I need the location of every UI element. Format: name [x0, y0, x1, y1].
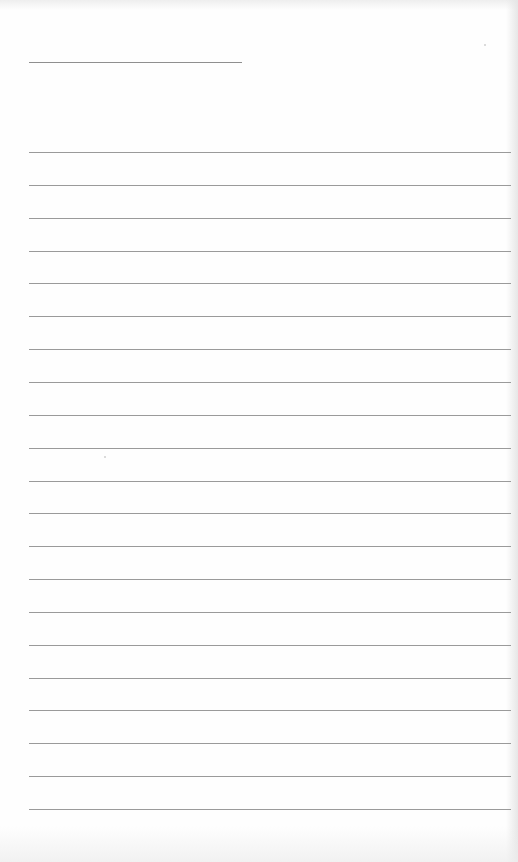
write-line-20[interactable]: [29, 776, 511, 777]
write-line-15[interactable]: [29, 612, 511, 613]
write-line-8[interactable]: [29, 382, 511, 383]
write-line-12[interactable]: [29, 513, 511, 514]
scan-top-shadow: [0, 0, 518, 10]
write-line-10[interactable]: [29, 448, 511, 449]
write-line-18[interactable]: [29, 710, 511, 711]
scan-bottom-shadow: [0, 826, 518, 862]
write-line-11[interactable]: [29, 481, 511, 482]
write-line-7[interactable]: [29, 349, 511, 350]
paper-speck: [104, 456, 106, 458]
paper-speck: [484, 44, 486, 46]
write-line-6[interactable]: [29, 316, 511, 317]
write-line-9[interactable]: [29, 415, 511, 416]
write-line-19[interactable]: [29, 743, 511, 744]
write-line-13[interactable]: [29, 546, 511, 547]
write-line-14[interactable]: [29, 579, 511, 580]
write-line-16[interactable]: [29, 645, 511, 646]
header-write-line[interactable]: [29, 62, 242, 63]
lined-paper-page: [0, 0, 518, 862]
write-line-1[interactable]: [29, 152, 511, 153]
write-line-2[interactable]: [29, 185, 511, 186]
write-line-17[interactable]: [29, 678, 511, 679]
write-line-3[interactable]: [29, 218, 511, 219]
scan-right-edge-shadow: [506, 0, 518, 862]
write-line-21[interactable]: [29, 809, 511, 810]
write-line-4[interactable]: [29, 251, 511, 252]
write-line-5[interactable]: [29, 283, 511, 284]
